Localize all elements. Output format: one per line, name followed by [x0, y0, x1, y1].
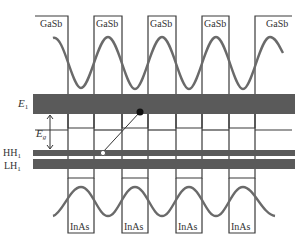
barrier-label: GaSb — [266, 18, 288, 29]
barrier-label: GaSb — [96, 18, 118, 29]
electron-dot — [137, 109, 144, 116]
electron-wavefunction — [53, 37, 283, 89]
barrier-label: GaSb — [204, 18, 226, 29]
well-label: InAs — [178, 221, 198, 232]
eg-label: Eg — [35, 127, 47, 141]
well-label: InAs — [124, 221, 144, 232]
lh1-band — [33, 159, 295, 169]
barrier-label: GaSb — [40, 18, 62, 29]
hole-dot — [100, 150, 105, 155]
barrier-label: GaSb — [150, 18, 172, 29]
well-label: InAs — [70, 221, 90, 232]
lh1-label: LH1 — [4, 160, 21, 173]
bandgap-arrow — [47, 115, 53, 149]
transition-line — [103, 113, 139, 152]
well-label: InAs — [231, 221, 251, 232]
e1-band — [33, 94, 295, 114]
hole-wavefunction — [53, 187, 275, 216]
hh1-label: HH1 — [3, 147, 21, 160]
hh1-band — [33, 150, 295, 156]
e1-label: E1 — [17, 97, 29, 111]
superlattice-diagram: GaSb GaSb GaSb GaSb GaSb InAs InAs InAs … — [0, 0, 306, 244]
